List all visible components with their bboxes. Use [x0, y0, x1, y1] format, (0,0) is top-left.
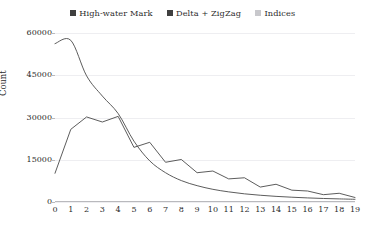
x-tick-label: 8 — [179, 206, 184, 214]
x-tick-label: 2 — [84, 206, 89, 214]
chart-legend: High-water Mark Delta + ZigZag Indices — [0, 8, 365, 18]
legend-swatch-indices — [255, 10, 261, 16]
x-tick-label: 13 — [255, 206, 265, 214]
y-tick-mark — [51, 118, 55, 119]
plot-area — [55, 33, 355, 202]
legend-label-high-water-mark: High-water Mark — [79, 8, 152, 18]
y-tick-label: 30000 — [27, 114, 52, 122]
gridline — [55, 202, 355, 203]
x-tick-label: 10 — [208, 206, 218, 214]
series-layer — [55, 33, 355, 202]
x-tick-label: 4 — [116, 206, 121, 214]
y-tick-label: 45000 — [27, 71, 52, 79]
y-tick-mark — [51, 202, 55, 203]
y-tick-label: 15000 — [27, 156, 52, 164]
x-tick-label: 18 — [334, 206, 344, 214]
legend-item-delta-zigzag[interactable]: Delta + ZigZag — [167, 8, 242, 18]
y-axis-label: Count — [0, 70, 8, 96]
legend-item-high-water-mark[interactable]: High-water Mark — [70, 8, 153, 18]
x-tick-label: 1 — [68, 206, 73, 214]
y-tick-mark — [51, 160, 55, 161]
legend-swatch-high-water-mark — [70, 10, 76, 16]
x-tick-label: 0 — [52, 206, 57, 214]
x-tick-label: 9 — [195, 206, 200, 214]
legend-label-indices: Indices — [265, 8, 296, 18]
y-tick-label: 60000 — [27, 29, 52, 37]
chart-container: High-water Mark Delta + ZigZag Indices C… — [0, 0, 365, 232]
legend-label-delta-zigzag: Delta + ZigZag — [176, 8, 241, 18]
x-tick-label: 6 — [147, 206, 152, 214]
y-tick-mark — [51, 33, 55, 34]
x-tick-label: 7 — [163, 206, 168, 214]
legend-item-indices[interactable]: Indices — [255, 8, 295, 18]
x-tick-label: 11 — [224, 206, 234, 214]
legend-swatch-delta-zigzag — [167, 10, 173, 16]
x-tick-label: 12 — [239, 206, 249, 214]
x-tick-label: 17 — [318, 206, 328, 214]
x-tick-label: 16 — [303, 206, 313, 214]
x-tick-label: 14 — [271, 206, 281, 214]
series-line-high-water-mark — [55, 39, 355, 200]
x-tick-label: 15 — [287, 206, 297, 214]
x-tick-label: 19 — [350, 206, 360, 214]
series-line-delta-zigzag — [55, 116, 355, 197]
y-tick-mark — [51, 75, 55, 76]
x-tick-label: 5 — [131, 206, 136, 214]
x-tick-label: 3 — [100, 206, 105, 214]
